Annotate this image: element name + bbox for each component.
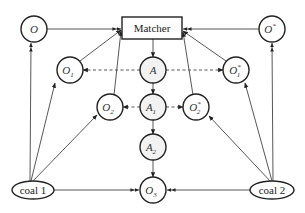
node-O1-star: O*1 xyxy=(223,57,249,83)
edge-O2-matcher xyxy=(114,31,121,95)
source-coal2: coal 2 xyxy=(250,181,294,199)
matcher-label: Matcher xyxy=(134,22,171,34)
node-A1: A1 xyxy=(140,94,166,120)
diagram-canvas: Matcher O O* O1 O*1 A O2 A1 O*2 xyxy=(0,0,305,213)
coal1-label: coal 1 xyxy=(20,184,47,196)
edge-coal1-O1 xyxy=(31,83,55,181)
edge-O1-matcher xyxy=(80,30,121,61)
node-A-label: A xyxy=(149,64,157,76)
node-O: O xyxy=(21,16,47,42)
edge-coal2-Ostar xyxy=(272,43,273,181)
edge-O2star-matcher xyxy=(183,32,193,95)
node-A2: A2 xyxy=(140,134,166,160)
source-coal1: coal 1 xyxy=(12,181,54,199)
edge-coal1-O2 xyxy=(32,115,97,182)
edge-coal2-O1star xyxy=(245,83,272,181)
edge-coal2-O2star xyxy=(209,116,271,182)
node-O2-star: O*2 xyxy=(183,94,209,120)
node-O2: O2 xyxy=(97,94,123,120)
node-O3: O3 xyxy=(140,177,166,203)
node-A: A xyxy=(140,57,166,83)
edge-O1star-matcher xyxy=(183,31,226,61)
node-O-star: O* xyxy=(259,16,285,42)
edge-coal1-O xyxy=(30,43,31,181)
coal2-label: coal 2 xyxy=(259,184,286,196)
node-O-label: O xyxy=(30,23,38,35)
node-O1: O1 xyxy=(57,57,83,83)
matcher-node: Matcher xyxy=(122,17,182,39)
